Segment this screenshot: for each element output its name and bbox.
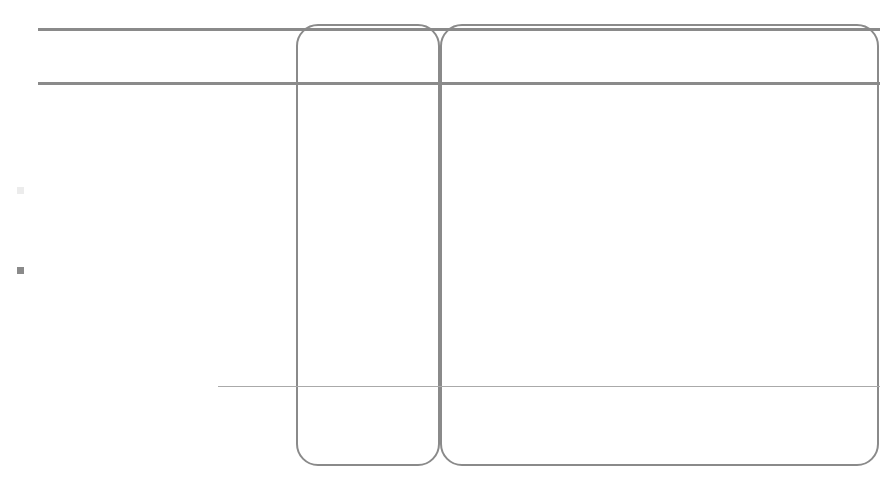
group-box-age-2bands [296, 24, 440, 466]
legend-swatch-at-risk [17, 187, 24, 194]
x-axis-line [218, 386, 880, 387]
legend-swatch-committed [17, 267, 24, 274]
group-box-age-4bands [440, 24, 879, 466]
